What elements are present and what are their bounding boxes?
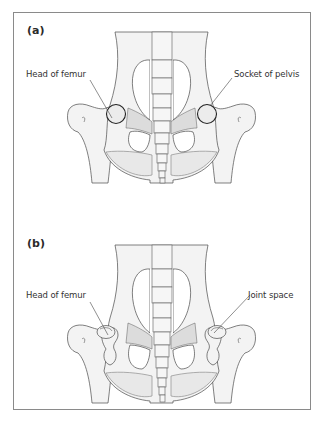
panel-a-normal-hip: (a) Head of femur Socket of pelvis <box>0 0 323 200</box>
leader-socket-of-pelvis <box>210 78 232 106</box>
panel-b-dysplastic-hip: (b) Head of femur Joint space <box>0 205 323 405</box>
pelvis-illustration-b <box>0 205 323 405</box>
pelvis-illustration-a <box>0 0 323 200</box>
right-femoral-head <box>198 105 217 124</box>
